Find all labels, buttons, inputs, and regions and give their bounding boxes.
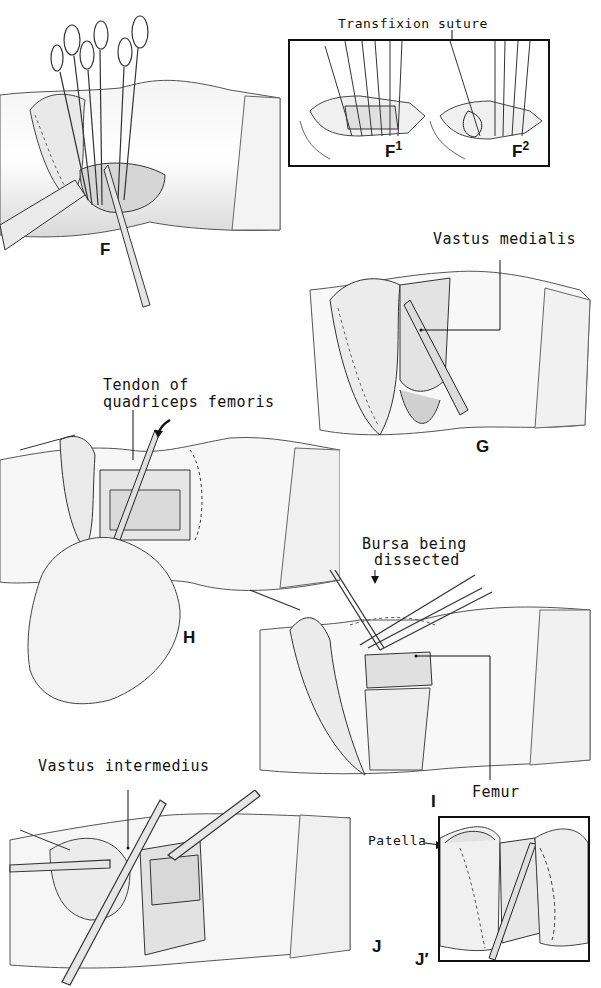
panel-jprime-id: J′: [415, 950, 429, 970]
panel-g-illustration: [300, 260, 601, 460]
patella-label: Patella: [368, 833, 426, 848]
panel-j-illustration: [0, 790, 360, 988]
panel-j: J: [0, 790, 360, 988]
panel-j-id: J: [372, 937, 381, 957]
panel-g: G: [300, 260, 601, 460]
panel-f2-id: F2: [512, 139, 529, 162]
femur-label: Femur: [472, 783, 520, 801]
panel-f2-superscript: 2: [522, 139, 529, 153]
panel-i-id: I: [431, 792, 436, 812]
panel-f1-id: F1: [385, 139, 402, 162]
inset-jprime-illustration: [440, 818, 588, 960]
inset-f1-f2: F1 F2: [288, 39, 550, 167]
vastus-medialis-label: Vastus medialis: [433, 230, 576, 248]
panel-i-illustration: [250, 570, 601, 810]
panel-f: F: [0, 0, 290, 320]
inset-jprime: [438, 816, 590, 962]
panel-f1-superscript: 1: [395, 139, 402, 153]
inset-f1-f2-illustration: [290, 41, 548, 165]
panel-f2-letter: F: [512, 142, 522, 161]
tendon-label-line2: quadriceps femoris: [103, 393, 275, 411]
panel-f-illustration: [0, 0, 290, 320]
vastus-intermedius-label: Vastus intermedius: [38, 757, 210, 775]
panel-f-id: F: [100, 240, 110, 260]
panel-i: [250, 570, 601, 810]
panel-g-id: G: [476, 437, 489, 457]
bursa-label-line2: dissected: [374, 551, 460, 569]
panel-h-id: H: [183, 628, 195, 648]
panel-f1-letter: F: [385, 142, 395, 161]
tendon-label-line1: Tendon of: [103, 376, 189, 394]
transfixion-suture-label: Transfixion suture: [338, 16, 488, 31]
